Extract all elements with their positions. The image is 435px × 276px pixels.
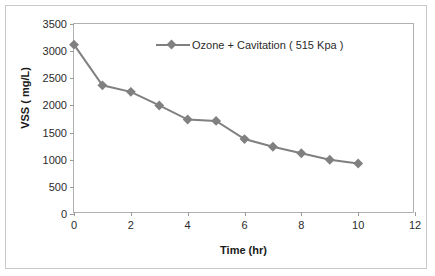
series-line-chart [74,24,415,214]
data-point-marker [154,100,164,110]
x-axis-tick-label: 8 [298,219,304,231]
legend-marker [156,39,190,51]
x-axis-tick-label: 4 [185,219,191,231]
x-axis-tick-label: 0 [71,219,77,231]
diamond-marker-icon [167,40,177,50]
data-point-marker [353,159,363,169]
legend-entry-label: Ozone + Cavitation ( 515 Kpa ) [192,39,343,51]
x-axis-title: Time (hr) [73,244,414,256]
y-axis-tick-label: 500 [49,181,67,193]
data-point-marker [325,155,335,165]
y-axis-title: VSS ( mg/L) [19,67,31,129]
x-axis-tick [415,212,416,216]
y-axis-tick-label: 3000 [43,45,67,57]
y-axis-tick-label: 1000 [43,154,67,166]
chart-frame: 0500100015002000250030003500 024681012 V… [5,5,427,269]
legend: Ozone + Cavitation ( 515 Kpa ) [156,39,343,51]
x-axis-tick-label: 2 [128,219,134,231]
y-axis-tick-label: 1500 [43,127,67,139]
y-axis-tick-label: 0 [61,208,67,220]
plot-area: 0500100015002000250030003500 024681012 [73,23,414,213]
data-point-marker [296,148,306,158]
x-axis-tick-label: 6 [241,219,247,231]
y-axis-tick-label: 2000 [43,99,67,111]
data-point-marker [183,115,193,125]
data-point-marker [211,116,221,126]
data-point-marker [268,142,278,152]
data-point-marker [240,134,250,144]
y-axis-tick-label: 3500 [43,18,67,30]
x-axis-tick-label: 12 [409,219,421,231]
y-axis-tick-label: 2500 [43,72,67,84]
series-line [74,45,358,164]
data-point-marker [126,87,136,97]
x-axis-tick-label: 10 [352,219,364,231]
